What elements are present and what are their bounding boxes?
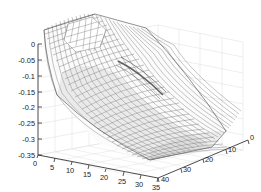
y-tick-label: 0	[250, 133, 254, 142]
z-tick-label: -0.1	[22, 72, 35, 81]
x-tick-label: 35	[152, 183, 160, 192]
z-tick-label: -0.15	[18, 88, 35, 97]
x-tick-label: 20	[100, 173, 108, 182]
x-tick-label: 25	[118, 177, 126, 186]
x-tick-label: 10	[66, 166, 74, 175]
z-tick-label: -0.25	[18, 119, 35, 128]
x-tick-label: 15	[83, 170, 91, 179]
y-tick-label: 10	[228, 145, 236, 154]
z-tick-label: -0.3	[22, 135, 35, 144]
plot-3d-svg: 0 -0.05 -0.1 -0.15 -0.2 -0.25 -0.3 -0.35…	[0, 0, 261, 192]
z-tick-label: -0.05	[18, 56, 35, 65]
figure-canvas: 0 -0.05 -0.1 -0.15 -0.2 -0.25 -0.3 -0.35…	[0, 0, 261, 192]
x-tick-label: 5	[50, 163, 54, 172]
x-tick-label: 30	[135, 180, 143, 189]
z-tick-label: 0	[31, 40, 35, 49]
y-tick-label: 30	[183, 165, 191, 174]
x-tick-label: 0	[33, 159, 37, 168]
z-tick-label: -0.2	[22, 103, 35, 112]
y-tick-label: 20	[205, 155, 213, 164]
y-tick-label: 40	[161, 175, 169, 184]
